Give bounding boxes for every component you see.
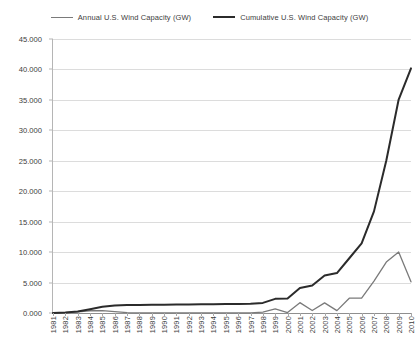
x-axis-tick-label: 1989 bbox=[148, 316, 157, 333]
y-axis-tick-label: 10.000 bbox=[19, 248, 42, 257]
chart-legend: Annual U.S. Wind Capacity (GW) Cumulativ… bbox=[0, 6, 419, 28]
x-axis-tick bbox=[176, 313, 177, 316]
x-axis-tick-label: 1981 bbox=[49, 316, 58, 333]
x-axis-tick-label: 2002 bbox=[308, 316, 317, 333]
x-axis-tick bbox=[312, 313, 313, 316]
x-axis-tick-label: 2006 bbox=[358, 316, 367, 333]
cumulative-line-swatch bbox=[213, 16, 235, 18]
y-axis-tick-label: 30.000 bbox=[19, 126, 42, 135]
x-axis-tick-label: 1992 bbox=[185, 316, 194, 333]
wind-capacity-line-chart: Annual U.S. Wind Capacity (GW) Cumulativ… bbox=[0, 0, 419, 357]
x-axis-tick bbox=[201, 313, 202, 316]
x-axis-tick-label: 1995 bbox=[222, 316, 231, 333]
x-axis-tick bbox=[53, 313, 54, 316]
y-axis-labels: 0.0005.00010.00015.00020.00025.00030.000… bbox=[0, 0, 48, 357]
legend-entry-cumulative: Cumulative U.S. Wind Capacity (GW) bbox=[213, 13, 368, 22]
x-axis-tick-label: 1987 bbox=[123, 316, 132, 333]
x-axis-tick-label: 2000 bbox=[284, 316, 293, 333]
x-axis-tick-label: 2005 bbox=[345, 316, 354, 333]
x-axis-labels: 1981198219831984198519861987198819891990… bbox=[53, 316, 411, 357]
plot-area bbox=[53, 39, 411, 313]
x-axis-tick-label: 1982 bbox=[61, 316, 70, 333]
x-axis-tick bbox=[238, 313, 239, 316]
y-axis-tick-label: 20.000 bbox=[19, 187, 42, 196]
x-axis-tick-label: 1999 bbox=[271, 316, 280, 333]
x-axis-tick-label: 2007 bbox=[370, 316, 379, 333]
x-axis-tick bbox=[399, 313, 400, 316]
x-axis-tick bbox=[213, 313, 214, 316]
x-axis-tick-label: 2003 bbox=[321, 316, 330, 333]
x-axis-tick bbox=[386, 313, 387, 316]
x-axis-tick-label: 2009 bbox=[395, 316, 404, 333]
x-axis-tick bbox=[115, 313, 116, 316]
x-axis-tick bbox=[411, 313, 412, 316]
legend-entry-annual: Annual U.S. Wind Capacity (GW) bbox=[51, 13, 191, 22]
x-axis-tick bbox=[164, 313, 165, 316]
x-axis-tick bbox=[349, 313, 350, 316]
x-axis-tick bbox=[325, 313, 326, 316]
x-axis-tick bbox=[362, 313, 363, 316]
x-axis-tick-label: 1985 bbox=[98, 316, 107, 333]
x-axis-tick bbox=[288, 313, 289, 316]
x-axis-tick-label: 1994 bbox=[209, 316, 218, 333]
y-axis-tick-label: 35.000 bbox=[19, 95, 42, 104]
legend-label-annual: Annual U.S. Wind Capacity (GW) bbox=[78, 13, 191, 22]
y-axis-tick-label: 45.000 bbox=[19, 35, 42, 44]
x-axis-tick-label: 1993 bbox=[197, 316, 206, 333]
x-axis-tick bbox=[139, 313, 140, 316]
series-lines bbox=[53, 39, 411, 313]
x-axis-tick-label: 2008 bbox=[382, 316, 391, 333]
x-axis-tick bbox=[251, 313, 252, 316]
x-axis-tick bbox=[127, 313, 128, 316]
y-axis-tick-label: 5.000 bbox=[23, 278, 42, 287]
x-axis-tick-label: 1983 bbox=[74, 316, 83, 333]
x-axis-tick-label: 1996 bbox=[234, 316, 243, 333]
legend-label-cumulative: Cumulative U.S. Wind Capacity (GW) bbox=[240, 13, 368, 22]
x-axis-tick-label: 1998 bbox=[259, 316, 268, 333]
x-axis-tick-label: 1991 bbox=[172, 316, 181, 333]
x-axis-tick bbox=[102, 313, 103, 316]
x-axis-tick-label: 1986 bbox=[111, 316, 120, 333]
x-axis-tick bbox=[263, 313, 264, 316]
x-axis-tick-label: 2004 bbox=[333, 316, 342, 333]
x-axis-tick bbox=[300, 313, 301, 316]
x-axis-tick bbox=[90, 313, 91, 316]
x-axis-tick-label: 1984 bbox=[86, 316, 95, 333]
x-axis-tick-label: 1997 bbox=[247, 316, 256, 333]
y-axis-tick-label: 15.000 bbox=[19, 217, 42, 226]
y-axis-tick-label: 0.000 bbox=[23, 309, 42, 318]
x-axis-tick bbox=[65, 313, 66, 316]
y-axis-tick-label: 40.000 bbox=[19, 65, 42, 74]
y-axis-tick-label: 25.000 bbox=[19, 156, 42, 165]
x-axis-tick bbox=[189, 313, 190, 316]
annual-line-swatch bbox=[51, 17, 73, 18]
x-axis-tick-label: 2001 bbox=[296, 316, 305, 333]
x-axis-tick-label: 1988 bbox=[135, 316, 144, 333]
x-axis-tick bbox=[78, 313, 79, 316]
x-axis-tick bbox=[337, 313, 338, 316]
x-axis-tick bbox=[152, 313, 153, 316]
x-axis-tick-label: 2010 bbox=[407, 316, 416, 333]
x-axis-tick bbox=[226, 313, 227, 316]
series-line bbox=[53, 68, 411, 313]
x-axis-tick bbox=[275, 313, 276, 316]
x-axis-tick-label: 1990 bbox=[160, 316, 169, 333]
x-axis-tick bbox=[374, 313, 375, 316]
